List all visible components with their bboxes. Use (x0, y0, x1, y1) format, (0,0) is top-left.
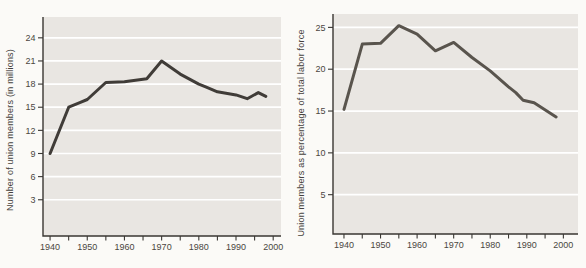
y-tick-label: 9 (30, 149, 35, 159)
y-tick-label: 20 (315, 64, 325, 74)
x-tick-label: 1970 (152, 242, 172, 252)
y-axis-label: Union members as percentage of total lab… (296, 29, 306, 236)
x-tick-label: 1990 (517, 240, 537, 250)
plot-area (43, 17, 281, 236)
y-tick-label: 25 (315, 23, 325, 33)
x-tick-label: 1990 (226, 242, 246, 252)
chart-canvas: 3691215182124194019501960197019801990200… (25, 17, 283, 252)
y-tick-label: 15 (315, 106, 325, 116)
x-tick-label: 1960 (407, 240, 427, 250)
chart-canvas: 5101520251940195019601970198019902000 (315, 14, 578, 250)
x-tick-label: 1940 (334, 240, 354, 250)
x-tick-label: 1980 (189, 242, 209, 252)
x-tick-label: 1950 (371, 240, 391, 250)
y-tick-label: 3 (30, 195, 35, 205)
union-members-percent-plot: 5101520251940195019601970198019902000 Un… (293, 0, 586, 268)
x-tick-label: 2000 (553, 240, 573, 250)
x-tick-label: 1970 (444, 240, 464, 250)
x-tick-label: 1960 (114, 242, 134, 252)
y-tick-label: 24 (25, 33, 35, 43)
y-tick-label: 5 (320, 190, 325, 200)
x-tick-label: 2000 (263, 242, 283, 252)
union-members-millions-plot: 3691215182124194019501960197019801990200… (0, 0, 293, 268)
y-axis-label: Number of union members (in millions) (5, 49, 15, 211)
y-tick-label: 10 (315, 148, 325, 158)
chart-union-members-percent: 5101520251940195019601970198019902000 Un… (293, 0, 586, 268)
x-tick-label: 1980 (480, 240, 500, 250)
x-tick-label: 1940 (40, 242, 60, 252)
y-tick-label: 21 (25, 56, 35, 66)
y-tick-label: 15 (25, 102, 35, 112)
chart-union-members-millions: 3691215182124194019501960197019801990200… (0, 0, 293, 268)
x-tick-label: 1950 (77, 242, 97, 252)
y-tick-label: 6 (30, 172, 35, 182)
plot-area (333, 14, 578, 234)
y-tick-label: 18 (25, 79, 35, 89)
y-tick-label: 12 (25, 126, 35, 136)
union-membership-figure: 3691215182124194019501960197019801990200… (0, 0, 586, 268)
